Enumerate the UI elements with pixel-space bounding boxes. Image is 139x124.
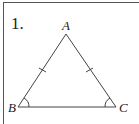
angle-arc-c — [105, 98, 110, 107]
tick-mark-ab — [39, 68, 46, 72]
triangle-diagram — [0, 0, 139, 124]
angle-arc-b — [24, 98, 29, 107]
